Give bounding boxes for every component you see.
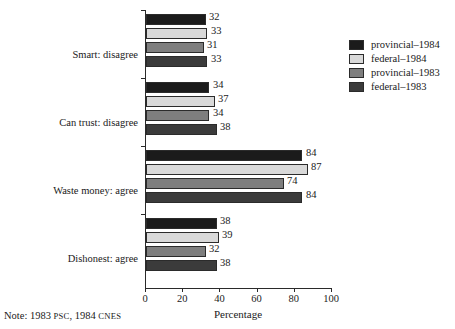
bar-provincial-1983 <box>146 42 204 53</box>
bar-provincial-1983 <box>146 178 284 189</box>
legend-label: federal–1984 <box>371 52 426 66</box>
bar-value-label: 33 <box>211 53 222 64</box>
category-axis-labels: Smart: disagree Can trust: disagree Wast… <box>0 10 138 288</box>
legend-swatch-icon <box>349 68 364 78</box>
bar-group-waste-money-agree: 84 87 74 84 <box>146 146 331 214</box>
bar-group-can-trust-disagree: 34 37 34 38 <box>146 78 331 146</box>
legend-swatch-icon <box>349 54 364 64</box>
bar-value-label: 34 <box>213 107 224 118</box>
bar-value-label: 32 <box>209 243 220 254</box>
bar-provincial-1984 <box>146 14 206 25</box>
x-axis-title: Percentage <box>145 308 331 320</box>
bar-provincial-1984 <box>146 218 217 229</box>
legend-label: provincial–1983 <box>371 66 440 80</box>
category-label-waste-money-agree: Waste money: agree <box>53 185 138 197</box>
bar-value-label: 34 <box>213 79 224 90</box>
x-tick-mark <box>257 288 258 292</box>
legend-item-provincial-1984: provincial–1984 <box>349 39 453 53</box>
x-tick-label: 80 <box>289 293 300 305</box>
x-tick-label: 20 <box>177 293 188 305</box>
x-tick-mark <box>145 288 146 292</box>
legend-label: federal–1983 <box>371 80 426 94</box>
bar-provincial-1984 <box>146 82 209 93</box>
bar-federal-1983 <box>146 260 217 271</box>
bar-federal-1983 <box>146 124 217 135</box>
legend-item-provincial-1983: provincial–1983 <box>349 67 453 81</box>
group-tick <box>141 214 146 215</box>
bar-federal-1984 <box>146 96 215 107</box>
footnote-prefix: Note: 1983 <box>4 310 54 321</box>
footnote: Note: 1983 PSC, 1984 CNES <box>4 309 121 323</box>
bar-value-label: 37 <box>218 93 229 104</box>
bar-value-label: 39 <box>222 229 233 240</box>
bar-value-label: 32 <box>209 11 220 22</box>
bar-value-label: 33 <box>211 25 222 36</box>
plot-area: 32 33 31 33 34 37 <box>145 10 331 288</box>
bar-group-smart-disagree: 32 33 31 33 <box>146 10 331 78</box>
group-tick <box>141 146 146 147</box>
x-tick-label: 60 <box>251 293 262 305</box>
bar-federal-1984 <box>146 232 219 243</box>
x-tick-label: 40 <box>214 293 225 305</box>
bar-federal-1984 <box>146 164 308 175</box>
x-tick-label: 0 <box>142 293 147 305</box>
bar-provincial-1984 <box>146 150 302 161</box>
legend-item-federal-1983: federal–1983 <box>349 81 453 95</box>
bar-value-label: 87 <box>311 161 322 172</box>
x-tick-label: 100 <box>323 293 339 305</box>
bar-provincial-1983 <box>146 246 206 257</box>
legend-label: provincial–1984 <box>371 38 440 52</box>
x-tick-mark <box>219 288 220 292</box>
footnote-source-psc: PSC <box>54 311 70 321</box>
category-label-can-trust-disagree: Can trust: disagree <box>59 117 138 129</box>
bar-value-label: 84 <box>306 189 317 200</box>
legend: provincial–1984 federal–1984 provincial–… <box>349 39 453 95</box>
bar-value-label: 38 <box>220 257 231 268</box>
legend-swatch-icon <box>349 82 364 92</box>
bar-value-label: 31 <box>207 39 218 50</box>
bar-group-dishonest-agree: 38 39 32 38 <box>146 214 331 282</box>
footnote-source-cnes: CNES <box>98 311 121 321</box>
bar-federal-1983 <box>146 56 207 67</box>
x-tick-mark <box>182 288 183 292</box>
bar-value-label: 74 <box>287 175 298 186</box>
group-tick <box>141 10 146 11</box>
bar-value-label: 38 <box>220 121 231 132</box>
group-tick <box>141 78 146 79</box>
x-tick-mark <box>331 288 332 292</box>
category-label-dishonest-agree: Dishonest: agree <box>68 253 138 265</box>
x-tick-mark <box>294 288 295 292</box>
legend-swatch-icon <box>349 40 364 50</box>
bar-value-label: 38 <box>220 215 231 226</box>
footnote-middle: , 1984 <box>69 310 98 321</box>
category-label-smart-disagree: Smart: disagree <box>72 49 138 61</box>
x-axis-ticks: 0 20 40 60 80 100 <box>145 288 331 308</box>
bar-federal-1983 <box>146 192 302 203</box>
bar-provincial-1983 <box>146 110 209 121</box>
bar-chart-figure: Smart: disagree Can trust: disagree Wast… <box>0 0 455 329</box>
bar-federal-1984 <box>146 28 207 39</box>
bar-value-label: 84 <box>306 147 317 158</box>
legend-item-federal-1984: federal–1984 <box>349 53 453 67</box>
